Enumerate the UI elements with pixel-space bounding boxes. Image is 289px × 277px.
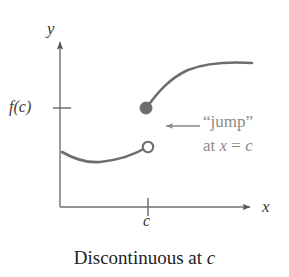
curve-right-branch	[147, 63, 252, 107]
annotation-at-prefix: at	[203, 136, 220, 155]
filled-point-marker	[140, 102, 152, 114]
discontinuity-figure: y x f(c) c “jump” at x = c Discontinuous…	[0, 0, 289, 277]
x-axis-label: x	[262, 198, 270, 215]
x-tick-label-c: c	[143, 213, 150, 229]
caption-prefix: Discontinuous at	[74, 247, 207, 268]
curve-left-branch	[62, 147, 147, 162]
annotation-at-x-equals-c: at x = c	[203, 137, 253, 154]
y-value-label-fc: f(c)	[9, 99, 31, 115]
annotation-jump-text: “jump”	[203, 113, 253, 130]
annotation-c-variable: c	[245, 136, 253, 155]
annotation-equals: =	[227, 136, 245, 155]
annotation-x-variable: x	[220, 136, 228, 155]
figure-caption: Discontinuous at c	[0, 248, 289, 267]
open-point-marker	[143, 142, 153, 152]
y-axis-label: y	[47, 20, 55, 37]
caption-variable: c	[207, 247, 215, 268]
